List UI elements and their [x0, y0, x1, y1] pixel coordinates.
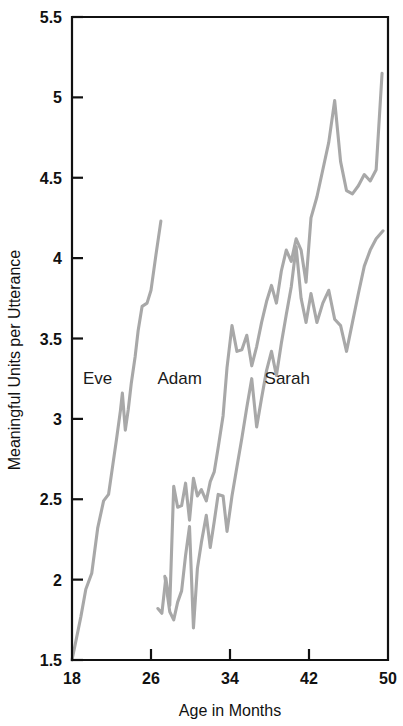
line-chart: 1.522.533.544.555.5 1826344250 EveAdamSa…	[0, 0, 403, 726]
y-tick-label-2: 2	[53, 572, 62, 589]
y-tick-label-5.5: 5.5	[40, 9, 62, 26]
x-tick-label-34: 34	[221, 670, 239, 687]
chart-figure: 1.522.533.544.555.5 1826344250 EveAdamSa…	[0, 0, 403, 726]
y-tick-label-5: 5	[53, 89, 62, 106]
y-tick-label-3: 3	[53, 411, 62, 428]
x-tick-label-18: 18	[63, 670, 81, 687]
x-axis-title: Age in Months	[179, 702, 281, 719]
chart-background	[0, 0, 403, 726]
series-annotation-eve: Eve	[83, 369, 112, 388]
y-tick-label-2.5: 2.5	[40, 491, 62, 508]
y-axis-title: Meaningful Units per Utterance	[6, 250, 23, 471]
x-tick-label-50: 50	[379, 670, 397, 687]
series-annotation-adam: Adam	[157, 369, 201, 388]
y-tick-label-4.5: 4.5	[40, 170, 62, 187]
x-tick-label-26: 26	[142, 670, 160, 687]
y-tick-label-1.5: 1.5	[40, 652, 62, 669]
x-tick-label-42: 42	[300, 670, 318, 687]
y-tick-label-4: 4	[53, 250, 62, 267]
y-tick-label-3.5: 3.5	[40, 331, 62, 348]
series-annotation-sarah: Sarah	[265, 369, 310, 388]
